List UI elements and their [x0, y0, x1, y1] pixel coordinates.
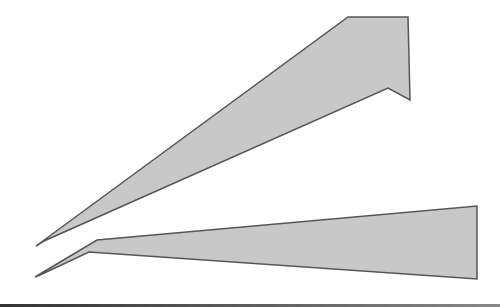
lower-wedge — [35, 206, 477, 279]
diagram-canvas — [0, 0, 500, 307]
upper-wedge — [36, 17, 410, 246]
